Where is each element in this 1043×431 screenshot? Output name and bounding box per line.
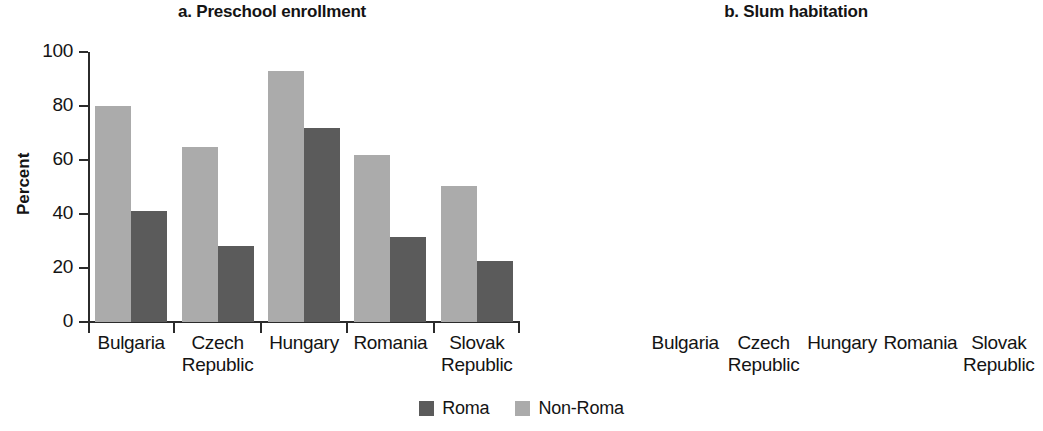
bar-a-slovak-republic-non-roma	[441, 186, 477, 322]
x-axis-category-label-line: Bulgaria	[652, 332, 719, 353]
x-axis-category-label-line: Czech	[737, 332, 789, 353]
panel-a-plot-area: 020406080100	[88, 52, 520, 322]
legend-item-roma: Roma	[419, 398, 489, 419]
legend-label: Roma	[442, 398, 489, 419]
x-axis-category-label-line: Republic	[434, 354, 520, 376]
bar-a-bulgaria-roma	[131, 211, 167, 322]
x-axis-category-label: Hungary	[261, 332, 347, 354]
legend-label: Non-Roma	[538, 398, 623, 419]
y-axis-tick-label: 100	[42, 40, 73, 62]
panel-a-y-axis-label: Percent	[14, 153, 34, 215]
y-axis-tick: 0	[79, 321, 88, 323]
y-axis-tick-label: 20	[52, 256, 73, 278]
x-axis-category-label-line: Hungary	[269, 332, 339, 353]
y-axis-tick-label: 60	[52, 148, 73, 170]
chart-legend: RomaNon-Roma	[0, 398, 1043, 419]
y-axis-tick: 100	[79, 51, 88, 53]
x-axis-category-label: CzechRepublic	[724, 332, 802, 376]
chart-panel-preschool-enrollment: a. Preschool enrollment Percent 02040608…	[0, 0, 522, 400]
y-axis-tick: 20	[79, 267, 88, 269]
x-axis-category-label-line: Republic	[960, 354, 1038, 376]
x-axis-category-label-line: Republic	[174, 354, 260, 376]
x-axis-category-label-line: Romania	[883, 332, 957, 353]
x-axis-category-label-line: Bulgaria	[98, 332, 165, 353]
bar-a-hungary-non-roma	[268, 71, 304, 322]
x-axis-category-label: SlovakRepublic	[434, 332, 520, 376]
panel-b-title: b. Slum habitation	[521, 2, 1043, 22]
y-axis-tick-label: 80	[52, 94, 73, 116]
bar-a-slovak-republic-roma	[477, 261, 513, 322]
y-axis-tick-label: 0	[63, 310, 73, 332]
bar-a-bulgaria-non-roma	[95, 106, 131, 322]
x-axis-category-label: SlovakRepublic	[960, 332, 1038, 376]
bar-a-czech-republic-roma	[218, 246, 254, 322]
legend-item-non-roma: Non-Roma	[515, 398, 623, 419]
x-axis-category-label: Hungary	[803, 332, 881, 354]
chart-panel-slum-habitation: b. Slum habitation Percent 01020304050 B…	[521, 0, 1043, 400]
bar-a-czech-republic-non-roma	[182, 147, 218, 323]
legend-swatch-icon	[515, 401, 530, 416]
x-axis-category-label: Bulgaria	[88, 332, 174, 354]
legend-swatch-icon	[419, 401, 434, 416]
bar-a-romania-roma	[390, 237, 426, 322]
y-axis-tick: 80	[79, 105, 88, 107]
figure-roma-non-roma-comparison: a. Preschool enrollment Percent 02040608…	[0, 0, 1043, 431]
x-axis-category-label-line: Slovak	[971, 332, 1026, 353]
x-axis-category-label: Romania	[347, 332, 433, 354]
x-axis-category-label-line: Republic	[724, 354, 802, 376]
x-axis-category-label: Bulgaria	[646, 332, 724, 354]
y-axis-tick: 40	[79, 213, 88, 215]
bar-a-hungary-roma	[304, 128, 340, 322]
y-axis-tick: 60	[79, 159, 88, 161]
x-axis-category-label-line: Slovak	[449, 332, 504, 353]
x-axis-category-label-line: Hungary	[807, 332, 877, 353]
x-axis-category-label-line: Romania	[353, 332, 427, 353]
x-axis-category-label: CzechRepublic	[174, 332, 260, 376]
bar-a-romania-non-roma	[354, 155, 390, 322]
y-axis-tick-label: 40	[52, 202, 73, 224]
panel-a-title: a. Preschool enrollment	[0, 2, 522, 22]
x-axis-category-label-line: Czech	[191, 332, 243, 353]
panel-a-y-axis-line	[88, 52, 90, 322]
x-axis-category-label: Romania	[881, 332, 959, 354]
